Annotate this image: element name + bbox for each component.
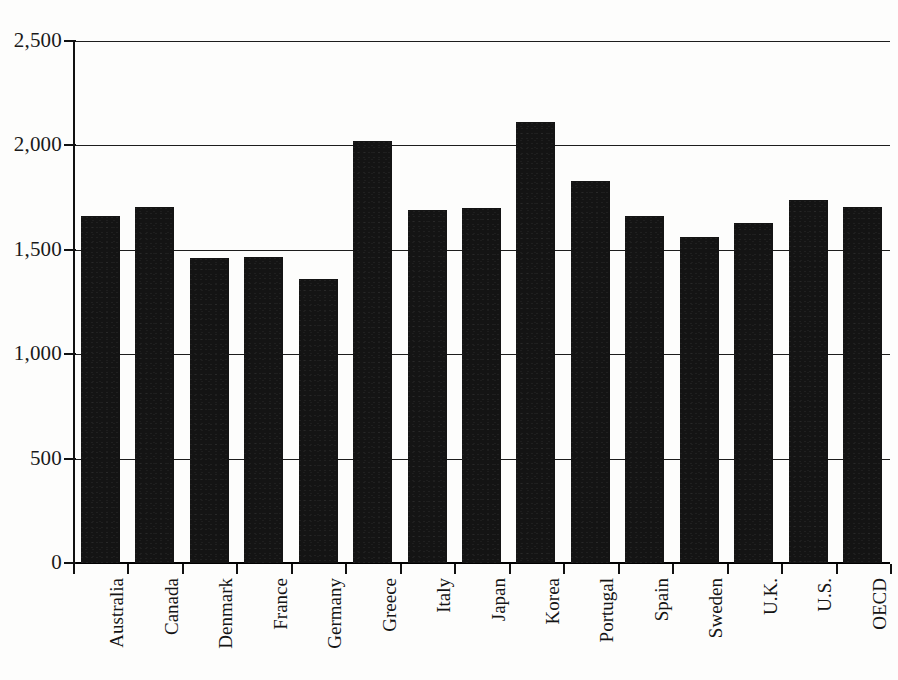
x-tick-mark-9 [563,564,565,574]
y-axis-labels: 05001,0001,5002,0002,500 [0,0,62,680]
x-tick-mark-5 [345,564,347,574]
y-tick-label-1000: 1,000 [0,343,62,364]
bar-japan [462,208,501,563]
bar-u-k [734,223,773,563]
x-tick-mark-8 [509,564,511,574]
x-tick-label-italy: Italy [434,578,453,613]
x-tick-mark-10 [618,564,620,574]
x-tick-label-u-k: U.K. [761,578,780,615]
bar-france [244,257,283,563]
x-tick-mark-13 [781,564,783,574]
y-tick-label-2500: 2,500 [0,30,62,51]
y-tick-label-500: 500 [0,448,62,469]
bar-portugal [571,181,610,563]
x-tick-label-u-s: U.S. [815,578,834,612]
x-tick-mark-0 [73,564,75,574]
x-tick-label-denmark: Denmark [216,578,235,649]
bar-oecd [843,207,882,563]
y-tick-label-0: 0 [0,552,62,573]
x-tick-label-japan: Japan [489,578,508,621]
bar-u-s [789,200,828,563]
y-tick-label-2000: 2,000 [0,134,62,155]
bar-korea [516,122,555,563]
x-tick-mark-14 [836,564,838,574]
x-tick-mark-12 [727,564,729,574]
bar-canada [135,207,174,563]
x-tick-mark-6 [400,564,402,574]
x-tick-mark-3 [236,564,238,574]
bar-sweden [680,237,719,563]
x-tick-mark-end [890,564,892,574]
bar-chart: 05001,0001,5002,0002,500 AustraliaCanada… [0,0,898,680]
x-tick-mark-11 [672,564,674,574]
bar-italy [408,210,447,563]
bar-australia [81,216,120,563]
x-tick-mark-1 [127,564,129,574]
x-tick-label-france: France [271,578,290,630]
x-tick-mark-7 [454,564,456,574]
x-tick-label-greece: Greece [380,578,399,632]
bar-germany [299,279,338,563]
y-tick-label-1500: 1,500 [0,239,62,260]
x-tick-label-canada: Canada [162,578,181,635]
x-tick-label-oecd: OECD [870,578,889,630]
x-tick-label-sweden: Sweden [706,578,725,638]
x-tick-mark-4 [291,564,293,574]
x-tick-label-korea: Korea [543,578,562,624]
bar-denmark [190,258,229,563]
bar-greece [353,141,392,563]
x-tick-label-germany: Germany [325,578,344,649]
x-tick-label-spain: Spain [652,578,671,621]
x-tick-mark-2 [182,564,184,574]
bar-spain [625,216,664,563]
x-tick-label-australia: Australia [107,578,126,648]
x-tick-label-portugal: Portugal [597,578,616,642]
